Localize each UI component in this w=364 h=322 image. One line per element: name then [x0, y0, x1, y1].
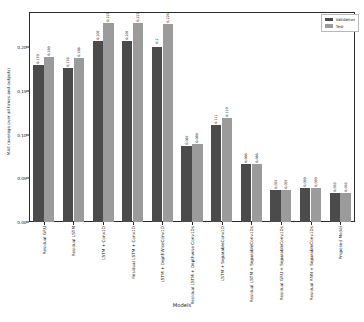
x-tick-mark — [103, 222, 104, 225]
x-tick-label-text: LSTM + DepthWiseConv1D — [160, 226, 165, 283]
bar-validation — [93, 41, 103, 222]
y-tick-label: 0.10 — [0, 132, 29, 137]
legend-swatch-icon — [325, 18, 333, 21]
x-tick-mark — [162, 222, 163, 225]
legend: ValidationTest — [321, 14, 359, 32]
x-tick-label-text: Residual LSTM — [71, 226, 76, 256]
bar-value-label: 0.066 — [244, 154, 248, 163]
bar-test — [222, 118, 232, 222]
bar-value-label: 0.227 — [106, 13, 110, 22]
legend-item-label: Test — [336, 24, 344, 29]
bar-value-label: 0.179 — [36, 55, 40, 64]
x-tick-label-text: Residual LSTM + Conv1D — [130, 226, 135, 279]
x-tick-label-text: Residual LSTM + SeparableConv1Ds — [249, 226, 254, 302]
bar-validation — [241, 164, 251, 222]
bar-test — [74, 58, 84, 223]
legend-item: Validation — [325, 17, 355, 22]
bar-validation — [63, 68, 73, 222]
y-tick-label: 0.00 — [0, 220, 29, 225]
bar-validation — [122, 41, 132, 222]
y-tick-label: 0.15 — [0, 88, 29, 93]
bar-value-label: 0.227 — [136, 13, 140, 22]
bar-validation — [152, 47, 162, 222]
bar-value-label: 0.188 — [77, 47, 81, 56]
bar-value-label: 0.033 — [344, 182, 348, 191]
bar-value-label: 0.207 — [125, 30, 129, 39]
bar-validation — [181, 146, 191, 222]
bar-test — [44, 57, 54, 222]
x-tick-label-text: LSTM + SeparableConv1D — [219, 226, 224, 281]
x-tick-mark — [222, 222, 223, 225]
bar-value-label: 0.066 — [255, 154, 259, 163]
x-tick-mark — [73, 222, 74, 225]
x-tick-mark — [251, 222, 252, 225]
y-tick-label: 0.20 — [0, 45, 29, 50]
x-tick-mark — [44, 222, 45, 225]
bar-test — [340, 193, 350, 222]
x-tick-label-text: Residual RNN + SeparableConv1Ds — [308, 226, 313, 300]
bar-value-label: 0.111 — [214, 114, 218, 123]
bar-value-label: 0.039 — [303, 177, 307, 186]
x-tick-label-text: LSTM + Conv1D — [101, 226, 106, 260]
bar-validation — [300, 188, 310, 222]
bar-test — [252, 164, 262, 222]
x-tick-mark — [192, 222, 193, 225]
y-axis-title-text: MAE (average over all times and outputs) — [7, 67, 12, 154]
bar-test — [192, 144, 202, 222]
bars-layer: 0.1790.1890.1760.1880.2070.2270.2070.227… — [29, 12, 355, 222]
bar-test — [103, 23, 113, 222]
x-tick-mark — [281, 222, 282, 225]
bar-value-label: 0.089 — [195, 133, 199, 142]
bar-value-label: 0.037 — [274, 179, 278, 188]
x-tick-mark — [133, 222, 134, 225]
bar-value-label: 0.176 — [66, 57, 70, 66]
legend-swatch-icon — [325, 24, 333, 27]
bar-validation — [211, 125, 221, 222]
x-tick-label-text: Proposed Model — [338, 226, 343, 259]
bar-test — [133, 23, 143, 222]
y-tick-label: 0.05 — [0, 176, 29, 181]
x-tick-label-text: Residual LSTM + Depthwise Conv1Ds — [190, 226, 195, 304]
x-tick-label-text: Residual GRU — [41, 226, 46, 254]
bar-value-label: 0.119 — [225, 107, 229, 116]
legend-item: Test — [325, 24, 355, 29]
bar-validation — [330, 193, 340, 222]
bar-value-label: 0.226 — [166, 14, 170, 23]
bar-value-label: 0.087 — [185, 135, 189, 144]
bar-value-label: 0.039 — [314, 177, 318, 186]
bar-chart-figure: MAE (average over all times and outputs)… — [0, 0, 364, 322]
y-axis-title: MAE (average over all times and outputs) — [2, 0, 16, 222]
x-axis-title: Models — [0, 302, 364, 308]
bar-test — [311, 188, 321, 222]
x-tick-label-text: Residual GRU + SeparableConv1Ds — [278, 226, 283, 300]
bar-value-label: 0.037 — [284, 179, 288, 188]
bar-test — [281, 190, 291, 222]
bar-value-label: 0.033 — [333, 182, 337, 191]
bar-value-label: 0.2 — [155, 38, 159, 43]
legend-item-label: Validation — [336, 17, 355, 22]
bar-value-label: 0.207 — [96, 30, 100, 39]
bar-test — [163, 24, 173, 222]
x-tick-mark — [311, 222, 312, 225]
bar-validation — [33, 65, 43, 222]
bar-validation — [270, 190, 280, 222]
bar-value-label: 0.189 — [47, 46, 51, 55]
x-tick-mark — [340, 222, 341, 225]
